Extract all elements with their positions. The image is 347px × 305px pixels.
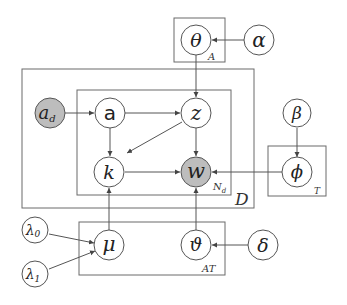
node-vartheta: ϑ [181,230,211,260]
edge-lambda1-mu [49,251,95,269]
svg-text:μ: μ [103,232,116,256]
edge-lambda0-mu [49,234,94,243]
node-delta: δ [248,230,278,260]
node-k: k [94,157,124,187]
node-alpha: α [244,25,274,55]
plate-D-label: D [234,189,249,209]
plate-AT-label: AT [201,263,217,274]
svg-text:k: k [103,161,115,183]
graphical-model-diagram: A D Nd T AT θ α ad a z k [0,0,347,305]
plate-Nd-label: Nd [212,181,227,195]
edge-z-k [127,122,182,153]
node-lambda0: λ0 [22,217,48,243]
plate-A-label: A [207,51,215,62]
plate-T-label: T [314,186,321,196]
node-phi: ϕ [282,157,312,187]
svg-text:ϑ: ϑ [190,234,203,255]
node-z: z [181,98,211,128]
svg-text:w: w [187,159,205,183]
node-lambda1: λ1 [22,261,48,287]
svg-text:z: z [190,101,202,125]
svg-text:ϕ: ϕ [291,161,303,182]
svg-text:θ: θ [190,29,202,51]
node-a: a [95,98,125,128]
node-theta: θ [181,25,211,55]
svg-text:β: β [291,103,302,123]
svg-text:δ: δ [257,234,268,256]
node-w: w [181,157,211,187]
node-a-d: ad [35,98,65,128]
node-beta: β [283,99,311,127]
svg-text:α: α [252,28,266,52]
svg-text:a: a [104,101,116,125]
node-mu: μ [94,230,124,260]
